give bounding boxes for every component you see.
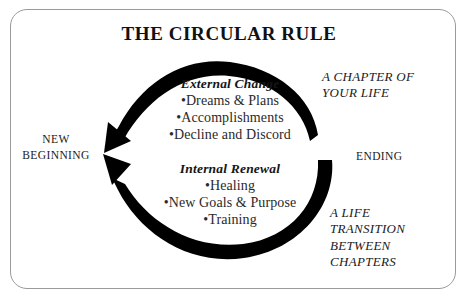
group-internal-renewal: Internal Renewal •Healing •New Goals & P… bbox=[110, 161, 350, 228]
annotation-transition-line4: CHAPTERS bbox=[330, 254, 458, 270]
group-external-change: External Change •Dreams & Plans •Accompl… bbox=[110, 76, 350, 143]
group-external-change-item: •Dreams & Plans bbox=[110, 93, 350, 109]
group-external-change-heading: External Change bbox=[110, 76, 350, 92]
group-internal-renewal-item: •Healing bbox=[110, 178, 350, 194]
group-internal-renewal-item: •New Goals & Purpose bbox=[110, 195, 350, 211]
annotation-transition-line3: BETWEEN bbox=[330, 238, 458, 254]
group-external-change-item: •Accomplishments bbox=[110, 110, 350, 126]
label-ending: ENDING bbox=[356, 150, 402, 162]
annotation-a-chapter-of-your-life: A CHAPTER OF YOUR LIFE bbox=[322, 69, 452, 102]
cycle-center-text: External Change •Dreams & Plans •Accompl… bbox=[110, 76, 350, 228]
annotation-transition-line2: TRANSITION bbox=[330, 221, 458, 237]
annotation-chapter-line1: A CHAPTER OF bbox=[322, 69, 452, 85]
label-new-beginning-line2: BEGINNING bbox=[8, 148, 104, 164]
annotation-transition-line1: A LIFE bbox=[330, 205, 458, 221]
group-internal-renewal-heading: Internal Renewal bbox=[110, 161, 350, 177]
label-new-beginning: NEW BEGINNING bbox=[8, 132, 104, 163]
page-title: THE CIRCULAR RULE bbox=[0, 24, 458, 44]
annotation-chapter-line2: YOUR LIFE bbox=[322, 85, 452, 101]
group-internal-renewal-item: •Training bbox=[110, 212, 350, 228]
annotation-a-life-transition-between-chapters: A LIFE TRANSITION BETWEEN CHAPTERS bbox=[330, 205, 458, 270]
circular-rule-diagram: THE CIRCULAR RULE External Change •Dream… bbox=[0, 0, 472, 301]
group-external-change-item: •Decline and Discord bbox=[110, 127, 350, 143]
label-new-beginning-line1: NEW bbox=[8, 132, 104, 148]
